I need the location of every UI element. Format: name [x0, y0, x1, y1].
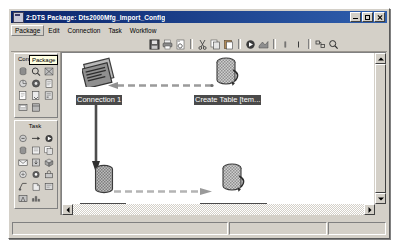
- toolbar: [11, 37, 387, 52]
- node-label-create-table-task[interactable]: Create Table [tem...: [194, 95, 261, 105]
- sql-server-connection-icon[interactable]: [92, 163, 116, 201]
- package-icon: [13, 12, 24, 23]
- design-canvas[interactable]: Connection 1: [62, 53, 374, 204]
- text-file-destination-icon[interactable]: [30, 90, 42, 101]
- status-bar: [12, 222, 386, 235]
- execute-sql-task-icon-2[interactable]: [218, 161, 250, 199]
- node-label-manipulate-site-task[interactable]: Manipulate Site C...: [200, 203, 267, 204]
- menu-bar: Package Edit Connection Task Workflow: [11, 24, 387, 37]
- node-manipulate-site-task[interactable]: Manipulate Site C...: [200, 161, 310, 204]
- dynamic-properties-task-icon[interactable]: [43, 181, 55, 192]
- app-screenshot: 2:DTS Package: Dts2000Mfg_Import_Config …: [0, 0, 401, 249]
- text-file-source-icon[interactable]: [17, 90, 29, 101]
- text-file-connection-icon[interactable]: [82, 57, 116, 91]
- execute-icon[interactable]: [245, 39, 256, 50]
- task-icon-grid: [15, 132, 57, 206]
- status-pane-message: [12, 222, 228, 235]
- transform-data-task-icon[interactable]: [30, 133, 42, 144]
- bulk-insert-task-icon[interactable]: [30, 157, 42, 168]
- status-pane-extra: [328, 222, 386, 235]
- toolbar-separator-4: [308, 39, 311, 49]
- other-odbc-connection-icon[interactable]: [17, 102, 29, 113]
- step-next-icon[interactable]: [293, 39, 304, 50]
- toolbar-separator-2: [238, 39, 241, 49]
- transfer-jobs-task-icon[interactable]: [17, 181, 29, 192]
- excel-connection-icon[interactable]: [17, 78, 29, 89]
- transfer-logins-task-icon[interactable]: [43, 169, 55, 180]
- cut-icon[interactable]: [197, 39, 208, 50]
- data-driven-query-task-icon[interactable]: [30, 145, 42, 156]
- node-connection-2[interactable]: Connection 2: [80, 163, 170, 204]
- ftp-task-icon[interactable]: [17, 193, 29, 204]
- menu-item-task[interactable]: Task: [104, 25, 125, 36]
- grid-arrange-icon[interactable]: [315, 39, 326, 50]
- ole-db-provider-icon[interactable]: [30, 102, 42, 113]
- scroll-up-button[interactable]: [375, 53, 386, 64]
- print-icon[interactable]: [162, 39, 173, 50]
- horizontal-scroll-track[interactable]: [73, 204, 364, 215]
- design-surface-wrap: Connection 1: [61, 52, 386, 215]
- menu-item-connection[interactable]: Connection: [64, 25, 105, 36]
- dbase-connection-icon[interactable]: [30, 78, 42, 89]
- execute-process-task-icon[interactable]: [43, 133, 55, 144]
- execute-package-task-icon[interactable]: [43, 157, 55, 168]
- activex-script-task-icon[interactable]: [17, 133, 29, 144]
- toolbar-separator-3: [273, 39, 276, 49]
- zoom-icon[interactable]: [328, 39, 339, 50]
- scroll-left-button[interactable]: [62, 204, 73, 215]
- scroll-right-button[interactable]: [364, 204, 375, 215]
- status-pane-info: [229, 222, 327, 235]
- message-queue-task-icon[interactable]: [17, 169, 29, 180]
- save-icon[interactable]: [149, 39, 160, 50]
- copy-sql-objects-task-icon[interactable]: [43, 145, 55, 156]
- node-label-connection-2[interactable]: Connection 2: [80, 203, 126, 204]
- maximize-button[interactable]: [362, 12, 373, 22]
- toolbar-separator-1: [190, 39, 193, 49]
- horizontal-scrollbar[interactable]: [62, 204, 386, 215]
- task-toolbox: Task: [14, 120, 58, 209]
- toolbox-panel: Conn Package: [12, 52, 61, 215]
- execute-sql-task-icon[interactable]: [212, 55, 244, 93]
- scrollbar-corner: [375, 204, 386, 215]
- window-title: 2:DTS Package: Dts2000Mfg_Import_Config: [26, 13, 165, 22]
- close-button[interactable]: [374, 12, 385, 22]
- minimize-button[interactable]: [350, 12, 361, 22]
- transfer-databases-task-icon[interactable]: [30, 181, 42, 192]
- step-forward-icon[interactable]: [280, 39, 291, 50]
- vertical-scroll-thumb[interactable]: [375, 64, 386, 193]
- node-label-connection-1[interactable]: Connection 1: [76, 95, 122, 105]
- package-properties-icon[interactable]: [258, 39, 269, 50]
- node-create-table-task[interactable]: Create Table [tem...: [194, 55, 294, 111]
- analysis-services-task-icon[interactable]: [30, 193, 42, 204]
- execute-sql-task-icon[interactable]: [17, 145, 29, 156]
- paradox-connection-icon[interactable]: [43, 78, 55, 89]
- node-connection-1[interactable]: Connection 1: [76, 57, 166, 113]
- html-file-icon[interactable]: [43, 90, 55, 101]
- toolbox-empty-slot: [43, 102, 55, 113]
- send-mail-task-icon[interactable]: [17, 157, 29, 168]
- access-connection-icon[interactable]: [43, 66, 55, 77]
- client-area: Conn Package: [12, 52, 386, 215]
- window-controls: [350, 12, 386, 22]
- print-preview-icon[interactable]: [175, 39, 186, 50]
- package-tooltip: Package: [29, 55, 58, 65]
- menu-item-edit[interactable]: Edit: [44, 25, 63, 36]
- paste-icon[interactable]: [223, 39, 234, 50]
- menu-item-workflow[interactable]: Workflow: [126, 25, 161, 36]
- oracle-connection-icon[interactable]: [30, 66, 42, 77]
- copy-icon[interactable]: [210, 39, 221, 50]
- dts-package-designer-window: 2:DTS Package: Dts2000Mfg_Import_Config …: [8, 8, 390, 239]
- connection-toolbox: Conn Package: [14, 53, 58, 118]
- connection-icon-grid: [15, 65, 57, 115]
- sql-server-connection-icon[interactable]: [17, 66, 29, 77]
- task-toolbox-caption: Task: [15, 121, 57, 132]
- vertical-scrollbar[interactable]: [374, 53, 386, 204]
- menu-item-package[interactable]: Package: [11, 25, 44, 36]
- scroll-down-button[interactable]: [375, 193, 386, 204]
- transfer-error-messages-task-icon[interactable]: [30, 169, 42, 180]
- title-bar[interactable]: 2:DTS Package: Dts2000Mfg_Import_Config: [11, 11, 387, 23]
- task-toolbox-empty-slot: [43, 193, 55, 204]
